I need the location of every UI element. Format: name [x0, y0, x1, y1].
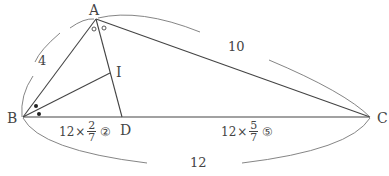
point-label-b: B	[7, 111, 17, 125]
angle-mark-b-2	[37, 112, 41, 116]
denominator: 7	[87, 132, 96, 143]
point-label-d: D	[120, 123, 131, 137]
point-label-a: A	[89, 3, 99, 17]
segment-expr-bd: 12 × 2 7 ②	[59, 120, 111, 143]
triangle-diagram	[0, 0, 389, 176]
ratio-mark: ②	[100, 125, 111, 139]
angle-mark-b-1	[34, 104, 38, 108]
arc-ac-left	[98, 15, 200, 32]
length-label-ac: 10	[228, 40, 245, 53]
denominator: 7	[249, 132, 258, 143]
arc-ac-right	[269, 60, 370, 117]
fraction: 5 7	[249, 120, 258, 143]
bisector-bi	[23, 73, 110, 117]
coef: 12	[59, 125, 74, 139]
length-label-ab: 4	[38, 54, 46, 67]
point-label-i: I	[116, 65, 122, 79]
fraction: 2 7	[87, 120, 96, 143]
ratio-mark: ⑤	[262, 125, 273, 139]
side-ac	[96, 19, 370, 117]
angle-mark-a-1	[92, 27, 96, 31]
angle-mark-a-2	[102, 26, 106, 30]
times-sign: ×	[75, 125, 85, 139]
point-label-c: C	[377, 111, 388, 125]
length-label-bc: 12	[190, 156, 207, 169]
coef: 12	[221, 125, 236, 139]
segment-expr-dc: 12 × 5 7 ⑤	[221, 120, 273, 143]
times-sign: ×	[237, 125, 247, 139]
